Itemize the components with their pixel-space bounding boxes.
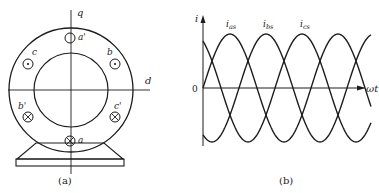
base-support xyxy=(17,143,123,159)
current-out-dot-icon xyxy=(27,63,29,65)
current-in-cross-icon xyxy=(25,114,32,121)
conductor-label: a' xyxy=(78,32,86,42)
d-axis-label: d xyxy=(145,75,151,86)
conductor-b-prime: b' xyxy=(18,101,33,122)
conductor-label: c' xyxy=(114,101,122,111)
base-plate xyxy=(16,159,124,166)
caption-b: (b) xyxy=(279,175,293,186)
x-axis-label: ωt xyxy=(366,83,379,94)
y-axis-label: i xyxy=(195,13,198,24)
y-axis-arrow-icon xyxy=(201,15,206,23)
conductor-a-prime: a' xyxy=(65,32,86,43)
label-subscript: bs xyxy=(266,23,274,31)
conductor-label: b' xyxy=(18,101,26,111)
label-i-cs: ics xyxy=(300,19,311,31)
conductor-label: a xyxy=(78,135,83,145)
label-i-bs: ibs xyxy=(263,19,274,31)
three-phase-current-plot: i ωt 0 ias ibs ics (b) xyxy=(192,13,379,186)
empty-conductor-icon xyxy=(65,33,75,43)
q-axis-label: q xyxy=(77,7,83,18)
current-in-cross-icon xyxy=(112,114,119,121)
conductor-a: a xyxy=(65,135,83,146)
conductor-c-prime: c' xyxy=(110,101,122,122)
conductor-c: c xyxy=(23,47,37,69)
label-i-as: ias xyxy=(226,19,237,31)
machine-cross-section: q d a' b c b' c' xyxy=(8,7,151,186)
diagram-canvas: q d a' b c b' c' xyxy=(0,0,379,193)
current-out-dot-icon xyxy=(114,63,116,65)
caption-a: (a) xyxy=(58,175,72,186)
origin-label: 0 xyxy=(192,84,198,94)
conductor-label: b xyxy=(107,47,113,57)
label-subscript: as xyxy=(229,23,237,31)
label-subscript: cs xyxy=(303,23,311,31)
conductor-label: c xyxy=(32,47,37,57)
